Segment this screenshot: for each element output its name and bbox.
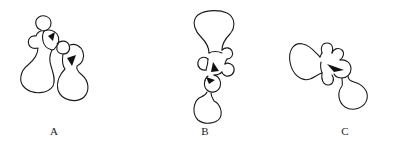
panel-a-wedge-upper [48, 32, 55, 41]
panel-a: A [0, 0, 140, 148]
panel-c-label: C [335, 124, 355, 138]
panel-b-label: B [195, 124, 215, 138]
panel-c-central-body [320, 53, 322, 73]
panel-c-bottom-lobe [322, 73, 334, 85]
panel-b-central-body [206, 52, 227, 76]
panel-c-wedge [327, 64, 344, 72]
panel-a-left-molecule [21, 31, 55, 93]
panel-b-right-lower-lobe [222, 63, 234, 76]
panel-b-top-lobe [194, 11, 234, 53]
panel-c-top-right-lobe [332, 49, 343, 60]
panel-a-wedge-lower [67, 55, 76, 66]
panel-b: B [140, 0, 270, 148]
panel-c-left-lobe [290, 44, 322, 80]
panel-b-wedge-lower [206, 77, 215, 84]
panel-a-top-lobe [36, 16, 51, 31]
panel-c: C [270, 0, 411, 148]
panel-c-lower-right-lobe [339, 76, 367, 109]
panel-a-right-molecule [57, 44, 87, 100]
panel-b-right-upper-lobe [222, 48, 233, 59]
panel-a-upper-junction [43, 30, 59, 50]
panel-b-wedge-upper [211, 62, 219, 72]
panel-b-lower-lobe [194, 92, 221, 123]
panel-a-label: A [44, 124, 64, 138]
panel-a-drawing [0, 0, 140, 148]
panel-c-top-left-lobe [321, 43, 333, 53]
